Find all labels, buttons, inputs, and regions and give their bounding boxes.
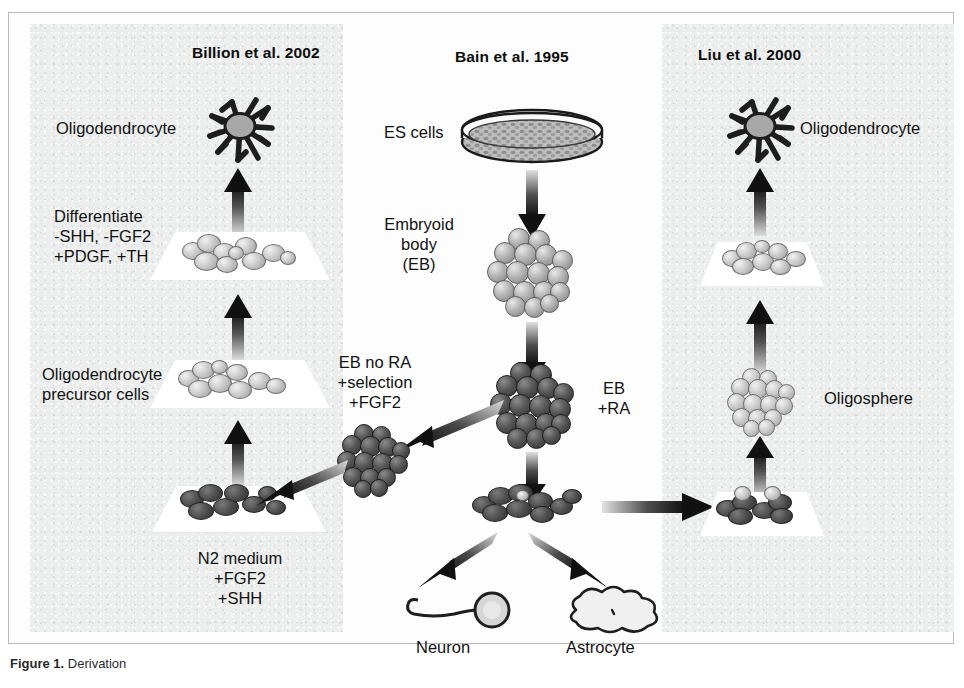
arrow-diagonal-icon bbox=[252, 460, 348, 510]
figure-container: Billion et al. 2002 Bain et al. 1995 Liu… bbox=[0, 0, 964, 688]
label-embryoid-body: Embryoid body (EB) bbox=[364, 214, 474, 274]
arrow-up-icon bbox=[740, 300, 780, 374]
study-title-liu: Liu et al. 2000 bbox=[698, 46, 801, 65]
study-title-billion: Billion et al. 2002 bbox=[192, 44, 320, 63]
label-es-cells: ES cells bbox=[384, 122, 444, 142]
arrow-diagonal-icon bbox=[412, 532, 498, 594]
embryoid-body-icon bbox=[484, 228, 580, 320]
panel-liu-2000 bbox=[662, 24, 954, 632]
arrow-up-icon bbox=[218, 168, 258, 234]
study-title-bain: Bain et al. 1995 bbox=[455, 48, 569, 67]
label-n2-medium: N2 medium +FGF2 +SHH bbox=[148, 548, 332, 608]
label-oligodendrocyte-right: Oligodendrocyte bbox=[800, 118, 920, 138]
label-neuron: Neuron bbox=[416, 637, 470, 657]
astrocyte-icon bbox=[558, 580, 664, 638]
figure-caption: Figure 1. Derivation bbox=[10, 656, 710, 671]
label-oligosphere: Oligosphere bbox=[824, 388, 913, 408]
caption-text: Derivation bbox=[64, 656, 126, 671]
panel-billion-2002 bbox=[30, 24, 343, 632]
label-astrocyte: Astrocyte bbox=[566, 637, 635, 657]
oligodendrocyte-icon bbox=[192, 82, 288, 178]
arrow-up-icon bbox=[740, 168, 780, 236]
neural-precursor-cluster-center bbox=[472, 484, 592, 522]
label-oligodendrocyte-left: Oligodendrocyte bbox=[56, 118, 176, 138]
oligosphere-icon bbox=[726, 368, 796, 434]
label-differentiate: Differentiate -SHH, -FGF2 +PDGF, +TH bbox=[54, 206, 151, 266]
arrow-right-icon bbox=[602, 488, 714, 526]
petri-dish-icon bbox=[456, 108, 608, 170]
neuron-icon bbox=[404, 588, 514, 636]
caption-prefix: Figure 1. bbox=[10, 656, 64, 671]
label-precursor-cells: Oligodendrocyte precursor cells bbox=[42, 364, 162, 404]
label-eb-ra: EB +RA bbox=[584, 378, 644, 418]
arrow-up-icon bbox=[218, 294, 258, 360]
oligodendrocyte-icon bbox=[712, 82, 808, 178]
